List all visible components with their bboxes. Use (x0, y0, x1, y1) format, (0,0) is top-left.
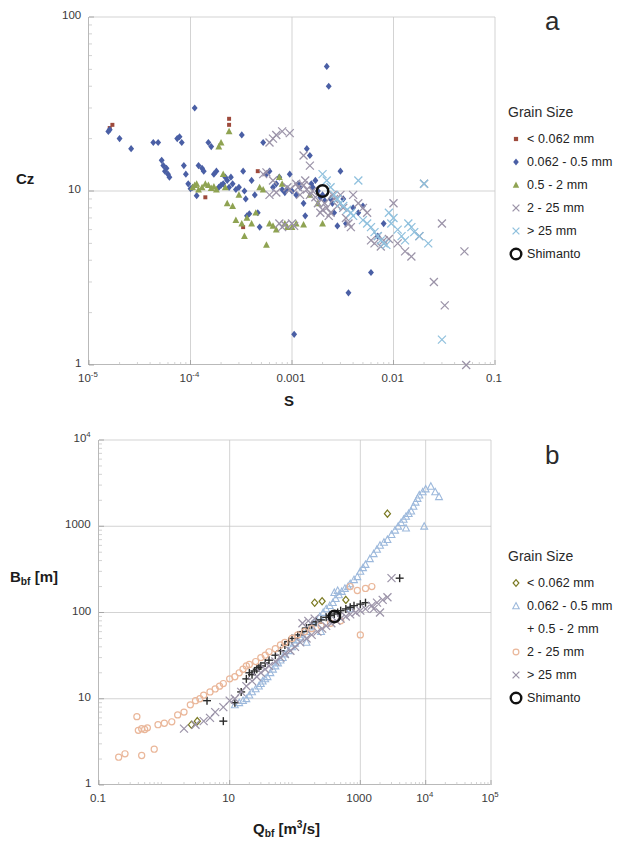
data-point (256, 169, 260, 173)
series-0-062-0-5-mm (231, 483, 442, 708)
x-tick-label: 0.001 (277, 372, 306, 384)
y-tick-label: 10 (68, 183, 81, 195)
scientific-figure: a Cz S 10-510-40.0010.010.1110100 Grain … (0, 0, 626, 849)
legend-marker-open-triangle (513, 602, 519, 608)
cross-x-icon (508, 667, 524, 683)
x-tick-label: 10-4 (180, 372, 200, 384)
data-point (227, 117, 231, 121)
legend-item-label: Shimanto (527, 691, 581, 705)
legend-marker-cross-x (513, 227, 520, 234)
legend-marker-square (514, 136, 518, 140)
open-circle-bold-icon (508, 690, 524, 706)
data-point (220, 171, 227, 177)
legend-item-3: 2 - 25 mm (508, 640, 612, 663)
data-point (424, 239, 432, 247)
data-point (368, 269, 374, 276)
legend-item-0: < 0.062 mm (508, 571, 612, 594)
data-point (241, 187, 247, 194)
legend-item-1: 0.062 - 0.5 mm (508, 150, 612, 173)
series-0-062-0-5-mm (105, 63, 386, 338)
panel-b-legend-items: < 0.062 mm0.062 - 0.5 mm+ 0.5 - 2 mm2 - … (508, 571, 612, 709)
data-point (324, 63, 330, 70)
x-tick-label: 0.1 (90, 792, 106, 804)
data-point (117, 135, 123, 142)
y-tick-label: 104 (74, 432, 91, 444)
data-point (155, 722, 161, 728)
data-point (362, 585, 368, 591)
data-point (116, 754, 122, 760)
data-point (354, 176, 362, 184)
panel-a-legend-items: < 0.062 mm0.062 - 0.5 mm0.5 - 2 mm2 - 25… (508, 127, 612, 265)
y-tick-label: 100 (62, 9, 81, 21)
panel-b-scatter-canvas (99, 440, 491, 785)
data-point (415, 232, 423, 240)
x-tick-label: 0.1 (486, 372, 502, 384)
data-point (343, 596, 349, 603)
data-point (401, 247, 409, 255)
legend-item-label: 0.062 - 0.5 mm (527, 155, 612, 169)
data-point (180, 725, 188, 733)
legend-item-2: + 0.5 - 2 mm (508, 617, 612, 640)
data-point (306, 162, 314, 170)
data-point (139, 752, 145, 758)
data-point (460, 247, 468, 255)
x-tick-label: 10 (222, 792, 235, 804)
data-point (337, 168, 343, 175)
panel-a-scatter-canvas (89, 17, 495, 365)
data-point (211, 708, 219, 716)
data-point (319, 598, 325, 605)
data-point (269, 176, 277, 184)
data-point (304, 145, 310, 152)
data-point (263, 241, 270, 247)
data-point (307, 152, 313, 159)
panel-b-legend-title: Grain Size (508, 548, 612, 564)
data-point (300, 151, 308, 159)
data-point (219, 717, 227, 725)
series-2-25-mm (259, 127, 470, 369)
data-point (151, 746, 157, 752)
panel-a-legend-title: Grain Size (508, 104, 612, 120)
data-point (227, 123, 231, 127)
legend-marker-diamond (513, 158, 519, 165)
legend-item-label: + 0.5 - 2 mm (527, 622, 599, 636)
data-point (161, 720, 167, 726)
panel-b-legend: Grain Size < 0.062 mm0.062 - 0.5 mm+ 0.5… (508, 548, 612, 709)
data-point (286, 129, 294, 137)
panel-b-x-axis-title: Qbf [m3/s] (253, 820, 320, 837)
legend-item-label: 2 - 25 mm (527, 645, 584, 659)
data-point (239, 131, 245, 138)
data-point (347, 223, 355, 231)
legend-marker-open-diamond (513, 579, 519, 586)
data-point (430, 278, 438, 286)
square-icon (508, 131, 524, 147)
y-tick-label: 1 (85, 777, 91, 789)
data-point (249, 177, 255, 184)
data-point (272, 189, 280, 197)
data-point (134, 714, 140, 720)
data-point (260, 139, 266, 146)
legend-item-4: > 25 mm (508, 219, 612, 242)
x-tick-label: 10-5 (78, 372, 98, 384)
data-point (462, 361, 470, 369)
data-point (238, 220, 245, 226)
data-point (326, 83, 332, 90)
data-point (350, 602, 358, 610)
panel-a-x-axis-title: S (284, 392, 294, 409)
legend-marker-open-circle-bold (511, 692, 522, 703)
data-point (349, 212, 357, 220)
data-point (319, 220, 326, 226)
panel-a: a Cz S 10-510-40.0010.010.1110100 Grain … (0, 0, 626, 420)
data-point (441, 301, 449, 309)
legend-marker-cross-x (513, 671, 520, 678)
data-point (388, 574, 396, 582)
data-point (183, 171, 189, 178)
data-point (128, 145, 134, 152)
legend-item-label: 0.062 - 0.5 mm (527, 599, 612, 613)
legend-item-2: 0.5 - 2 mm (508, 173, 612, 196)
open-triangle-icon (508, 598, 524, 614)
legend-item-0: < 0.062 mm (508, 127, 612, 150)
data-point (438, 220, 446, 228)
y-tick-label: 100 (72, 605, 91, 617)
legend-item-label: > 25 mm (527, 668, 577, 682)
plus-icon (508, 621, 524, 637)
